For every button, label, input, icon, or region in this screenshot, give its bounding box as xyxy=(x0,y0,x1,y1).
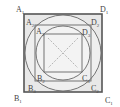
label-A1: A1 xyxy=(16,5,25,15)
label-D1: D1 xyxy=(100,5,109,15)
nested-squares-circles-diagram: A1 D1 B1 C1 A2 D2 B3 C2 A3 D3 B2 C3 xyxy=(0,0,120,107)
diagram-canvas: A1 D1 B1 C1 A2 D2 B3 C2 A3 D3 B2 C3 xyxy=(0,0,120,107)
label-B1: B1 xyxy=(14,94,22,104)
label-C1: C1 xyxy=(105,96,113,106)
